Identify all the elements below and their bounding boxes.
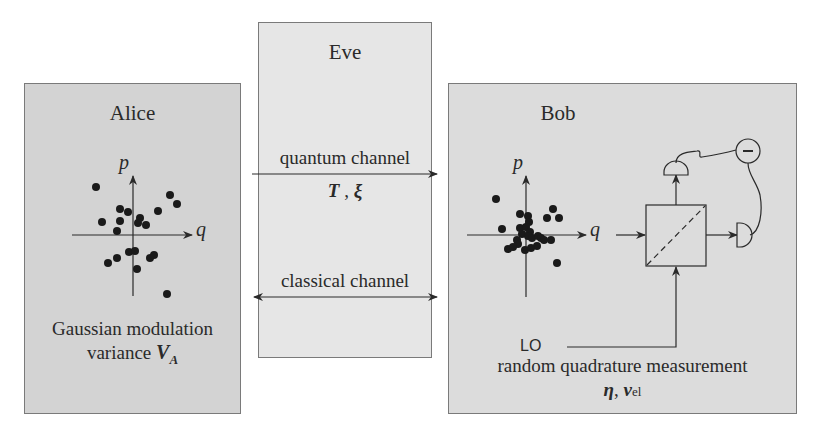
photodetector-top [664, 161, 688, 175]
constellation-point [543, 214, 551, 222]
constellation-point [553, 259, 561, 267]
constellation-point [113, 227, 121, 235]
constellation-point [150, 251, 158, 259]
photodetector-right [737, 223, 752, 247]
alice-constellation-points [92, 183, 181, 298]
alice-caption-line2: variance VA [24, 341, 241, 368]
constellation-point [173, 200, 181, 208]
bob-axis-p-label: p [513, 151, 523, 174]
quantum-channel-label: quantum channel [258, 147, 432, 169]
bob-axis-q-label: q [590, 218, 600, 241]
constellation-point [142, 221, 150, 229]
constellation-point [540, 236, 548, 244]
constellation-point [113, 254, 121, 262]
constellation-point [92, 183, 100, 191]
homodyne-detector [567, 139, 761, 347]
alice-axis-q-label: q [196, 218, 206, 241]
electronic-noise-symbol: v [624, 379, 632, 400]
constellation-point [509, 243, 517, 251]
efficiency-symbol: η [604, 379, 614, 400]
bob-title: Bob [448, 101, 668, 126]
constellation-point [133, 265, 141, 273]
alice-title: Alice [24, 101, 241, 126]
constellation-point [98, 218, 106, 226]
alice-axis-p-label: p [119, 151, 129, 174]
constellation-point [166, 191, 174, 199]
quantum-channel-params: T , ξ [258, 180, 432, 202]
constellation-point [516, 210, 524, 218]
eve-title: Eve [258, 40, 432, 65]
constellation-point [116, 205, 124, 213]
constellation-point [124, 208, 132, 216]
bob-constellation-points [492, 195, 563, 267]
alice-phase-space-axes [72, 176, 192, 296]
constellation-point [555, 214, 563, 222]
constellation-point [163, 290, 171, 298]
constellation-point [492, 195, 500, 203]
constellation-point [104, 259, 112, 267]
alice-caption-line1: Gaussian modulation [24, 318, 241, 340]
constellation-point [498, 225, 506, 233]
local-oscillator-label: LO [520, 337, 541, 355]
constellation-point [549, 205, 557, 213]
bob-caption-line1: random quadrature measurement [448, 355, 797, 377]
classical-channel-label: classical channel [258, 270, 432, 292]
constellation-point [131, 247, 139, 255]
constellation-point [154, 207, 162, 215]
variance-symbol: V [156, 341, 169, 363]
constellation-point [547, 236, 555, 244]
constellation-point [527, 244, 535, 252]
constellation-point [116, 217, 124, 225]
bob-caption-line2: η, vel [448, 379, 797, 401]
constellation-point [134, 219, 142, 227]
